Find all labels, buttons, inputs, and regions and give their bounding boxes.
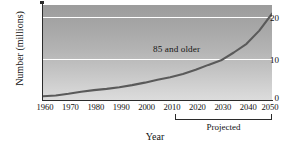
x-tick-label-1970: 1970: [62, 102, 79, 112]
x-tick-label-1980: 1980: [87, 102, 104, 112]
x-tick-label-2030: 2030: [214, 102, 231, 112]
x-tick-label-1960: 1960: [37, 102, 54, 112]
bracket-span-line: [175, 119, 272, 120]
x-tick-label-2020: 2020: [189, 102, 206, 112]
x-tick-label-2010: 2010: [164, 102, 181, 112]
x-tick-label-2040: 2040: [240, 102, 257, 112]
x-axis-tick-labels: 1960 1970 1980 1990 2000 2010 2020 2030 …: [43, 102, 272, 114]
x-tick-label-2050: 2050: [262, 102, 279, 112]
plot-area: 85 and older: [43, 5, 272, 100]
series-annotation-label: 85 and older: [153, 44, 200, 54]
x-tick-label-1990: 1990: [113, 102, 130, 112]
x-axis-title: Year: [90, 131, 220, 142]
y-axis-line: [42, 3, 43, 101]
y-axis-title: Number (millions): [14, 0, 25, 108]
y-tick-label-20: 20: [244, 13, 282, 23]
bracket-arm-right: [271, 114, 272, 120]
chart-figure: 85 and older 0 10 20 1960 1970 1980 1990…: [0, 0, 282, 149]
x-tick-label-2000: 2000: [138, 102, 155, 112]
y-tick-label-10: 10: [244, 55, 282, 65]
projected-range-bracket: [175, 114, 272, 121]
y-axis-cap-marker: [40, 1, 44, 4]
